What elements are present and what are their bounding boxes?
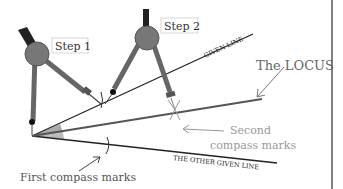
compass1-hinge	[25, 42, 49, 66]
given-line-label: GIVEN LINE	[203, 35, 245, 60]
first-marks-label: First compass marks	[20, 171, 136, 184]
first-compass-mark-lower	[106, 137, 109, 154]
locus-label: The LOCUS	[256, 58, 334, 73]
locus-line	[32, 99, 262, 136]
step2-label: Step 2	[164, 20, 200, 33]
compass2-needle-clamp	[166, 91, 176, 98]
compass2-pencil-tip	[110, 89, 116, 95]
first-compass-mark-upper	[101, 92, 103, 108]
second-marks-label-line2: compass marks	[210, 139, 297, 152]
second-marks-arrow-shaft	[183, 129, 224, 131]
step1-label: Step 1	[55, 40, 91, 53]
compass2-hinge	[135, 26, 159, 50]
compass1-needle-point	[89, 94, 101, 104]
compass2-pencil-leg	[114, 40, 141, 89]
angle-bisector-diagram: Step 1 Step 2 GIVEN LINE THE OTHER GIVEN…	[0, 0, 343, 189]
second-marks-label-line1: Second	[230, 124, 271, 137]
first-marks-arrow-shaft	[79, 157, 100, 171]
